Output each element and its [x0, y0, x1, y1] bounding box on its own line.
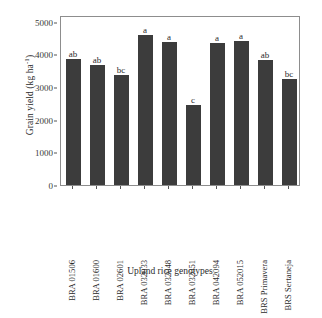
y-tick-mark [54, 153, 57, 154]
x-tick-mark [144, 186, 145, 189]
bar [66, 59, 81, 185]
y-tick-mark [54, 55, 57, 56]
bar [138, 35, 153, 185]
bar [186, 105, 201, 185]
bar [162, 42, 177, 185]
x-tick-mark [288, 186, 289, 189]
y-tick-label: 5000 [35, 18, 53, 28]
bar [114, 75, 129, 186]
x-tick-mark [192, 186, 193, 189]
x-tick-mark [216, 186, 217, 189]
plot-area: ababbcaacaaabbc [60, 16, 300, 186]
y-tick-label: 3000 [35, 83, 53, 93]
bar [258, 60, 273, 185]
x-tick-mark [72, 186, 73, 189]
bar [90, 65, 105, 185]
y-tick-mark [54, 120, 57, 121]
bar-significance-letter: c [179, 95, 207, 105]
x-tick-mark [264, 186, 265, 189]
y-tick-label: 0 [49, 181, 54, 191]
x-axis-category-labels: BRA 01506BRA 01600BRA 02601BRA 032033BRA… [60, 190, 300, 262]
plot-inner: ababbcaacaaabbc [61, 17, 299, 185]
bar-significance-letter: bc [275, 69, 303, 79]
x-tick-mark [168, 186, 169, 189]
bar-significance-letter: ab [251, 50, 279, 60]
bar-significance-letter: bc [107, 65, 135, 75]
bar [282, 79, 297, 185]
y-tick-label: 4000 [35, 50, 53, 60]
x-tick-mark [120, 186, 121, 189]
bar [234, 41, 249, 185]
bar [210, 43, 225, 185]
bar-significance-letter: ab [83, 55, 111, 65]
y-tick-mark [54, 186, 57, 187]
bar-significance-letter: a [155, 32, 183, 42]
y-tick-mark [54, 22, 57, 23]
x-axis-title: Upland rice genotypes [40, 266, 300, 276]
bar-significance-letter: a [227, 31, 255, 41]
y-tick-label: 2000 [35, 116, 53, 126]
x-tick-mark [96, 186, 97, 189]
y-axis-ticks: 010002000300040005000 [24, 16, 57, 186]
y-tick-label: 1000 [35, 148, 53, 158]
y-tick-mark [54, 87, 57, 88]
x-tick-mark [240, 186, 241, 189]
